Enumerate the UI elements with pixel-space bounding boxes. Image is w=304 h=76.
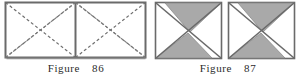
figure-plate: Figure86 bbox=[0, 0, 304, 76]
figure-86-group: Figure86 bbox=[0, 0, 152, 76]
figure-87-caption-number: 87 bbox=[244, 62, 256, 74]
figure-87-caption-word: Figure bbox=[200, 62, 232, 74]
figure-87-square-2 bbox=[229, 3, 295, 59]
figure-87-group: Figure87 bbox=[152, 0, 304, 76]
figure-86-caption: Figure86 bbox=[0, 62, 152, 75]
figure-86-caption-number: 86 bbox=[92, 62, 104, 74]
figure-87-caption: Figure87 bbox=[152, 62, 304, 75]
figure-86-caption-word: Figure bbox=[48, 62, 80, 74]
figure-87-square-1 bbox=[156, 3, 222, 59]
